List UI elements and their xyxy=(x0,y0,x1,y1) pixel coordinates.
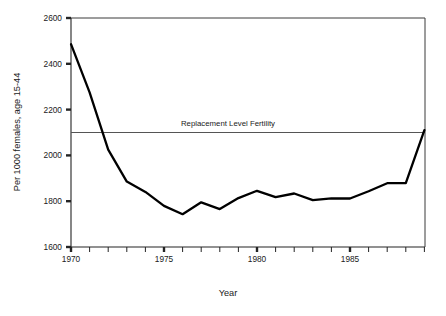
x-tick-label: 1970 xyxy=(62,254,81,264)
x-axis-title: Year xyxy=(219,288,238,298)
y-tick-label: 1800 xyxy=(44,196,63,206)
y-axis-ticks xyxy=(66,18,71,247)
x-tick-label: 1975 xyxy=(155,254,174,264)
x-axis-tick-labels: 1970 1975 1980 1985 xyxy=(62,254,360,264)
y-tick-label: 1600 xyxy=(44,242,63,252)
y-tick-label: 2000 xyxy=(44,150,63,160)
y-axis-tick-labels: 1600 1800 2000 2200 2400 2600 xyxy=(44,13,63,252)
x-axis-major-ticks xyxy=(71,247,350,252)
y-tick-label: 2400 xyxy=(44,59,63,69)
y-tick-label: 2200 xyxy=(44,105,63,115)
fertility-rate-line xyxy=(71,44,424,214)
fertility-rate-chart: 1600 1800 2000 2200 2400 2600 xyxy=(0,0,446,316)
y-axis-title: Per 1000 females, age 15-44 xyxy=(12,73,22,192)
x-tick-label: 1985 xyxy=(341,254,360,264)
chart-canvas: 1600 1800 2000 2200 2400 2600 xyxy=(0,0,446,316)
x-tick-label: 1980 xyxy=(248,254,267,264)
replacement-level-fertility-label: Replacement Level Fertility xyxy=(181,119,275,128)
y-tick-label: 2600 xyxy=(44,13,63,23)
